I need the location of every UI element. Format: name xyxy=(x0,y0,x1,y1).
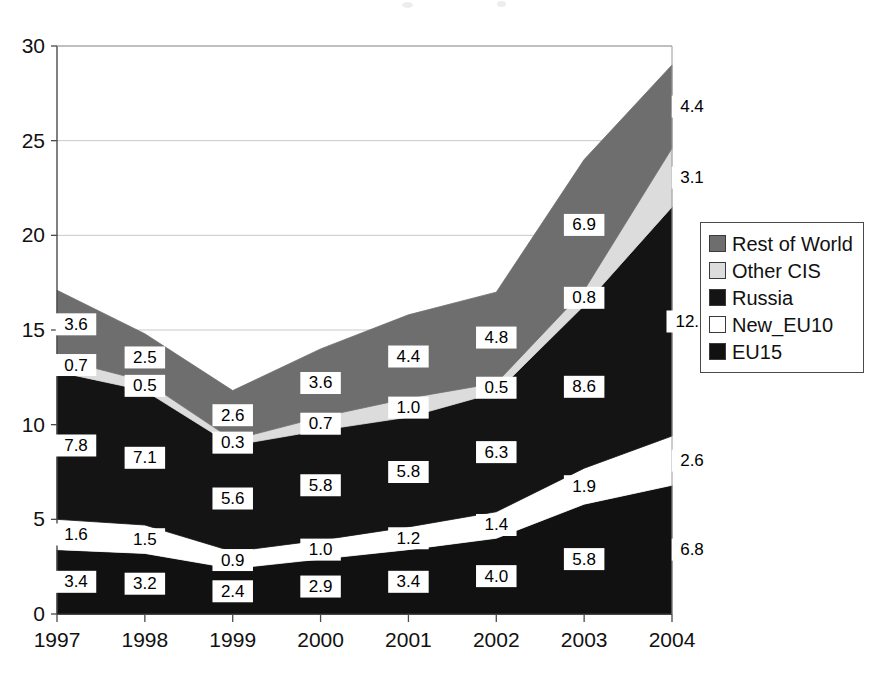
legend-item-label: EU15 xyxy=(732,342,782,362)
y-axis-tick-label: 15 xyxy=(22,318,45,341)
data-label-eu15-2001: 3.4 xyxy=(388,571,429,593)
x-axis-labels: 19971998199920002001200220032004 xyxy=(34,628,696,651)
data-label-value: 5.8 xyxy=(572,550,596,569)
data-label-value: 5.8 xyxy=(309,476,333,495)
data-label-value: 0.3 xyxy=(221,433,245,452)
y-axis-tick-label: 30 xyxy=(22,34,45,57)
data-label-other-cis-2002: 0.5 xyxy=(476,377,517,399)
data-label-rest-of-world-1997: 3.6 xyxy=(56,313,97,335)
data-label-russia-2001: 5.8 xyxy=(388,461,429,483)
legend-item-rest-of-world[interactable]: Rest of World xyxy=(709,230,853,257)
legend-item-new-eu10[interactable]: New_EU10 xyxy=(709,311,853,338)
data-label-other-cis-2001: 1.0 xyxy=(388,397,429,419)
data-label-value: 1.6 xyxy=(64,525,88,544)
data-label-rest-of-world-2000: 3.6 xyxy=(300,372,341,394)
x-axis-tick-label: 1998 xyxy=(121,628,168,651)
data-label-value: 4.4 xyxy=(680,97,704,116)
data-label-other-cis-2000: 0.7 xyxy=(300,413,341,435)
data-label-value: 6.9 xyxy=(572,215,596,234)
data-label-value: 4.4 xyxy=(397,347,421,366)
legend-item-eu15[interactable]: EU15 xyxy=(709,338,853,365)
legend-swatch-icon xyxy=(709,262,726,279)
data-label-russia-2000: 5.8 xyxy=(300,474,341,496)
legend-swatch-icon xyxy=(709,343,726,360)
legend-item-label: Rest of World xyxy=(732,234,853,254)
data-label-value: 8.6 xyxy=(572,377,596,396)
data-label-value: 2.4 xyxy=(221,582,245,601)
data-label-eu15-2000: 2.9 xyxy=(300,576,341,598)
data-label-other-cis-1999: 0.3 xyxy=(212,432,253,454)
data-label-russia-1998: 7.1 xyxy=(125,447,166,469)
data-label-new-eu10-1999: 0.9 xyxy=(212,549,253,571)
y-axis-tick-label: 25 xyxy=(22,129,45,152)
data-label-eu15-2004: 6.8 xyxy=(672,539,713,561)
y-axis-tick-label: 0 xyxy=(33,602,45,625)
data-label-value: 2.5 xyxy=(133,348,157,367)
data-label-new-eu10-2004: 2.6 xyxy=(672,450,713,472)
data-label-new-eu10-2002: 1.4 xyxy=(476,514,517,536)
data-label-eu15-1998: 3.2 xyxy=(125,573,166,595)
data-label-other-cis-1997: 0.7 xyxy=(56,354,97,376)
x-axis-tick-label: 2003 xyxy=(561,628,608,651)
data-label-value: 3.6 xyxy=(309,373,333,392)
data-label-value: 1.4 xyxy=(484,515,508,534)
data-label-value: 0.5 xyxy=(484,378,508,397)
data-label-value: 1.0 xyxy=(397,398,421,417)
data-label-value: 2.6 xyxy=(680,451,704,470)
data-label-eu15-2003: 5.8 xyxy=(564,548,605,570)
data-label-value: 1.5 xyxy=(133,530,157,549)
x-axis-tick-label: 1999 xyxy=(209,628,256,651)
data-label-value: 6.8 xyxy=(680,540,704,559)
y-axis-tick-label: 20 xyxy=(22,223,45,246)
data-label-rest-of-world-2004: 4.4 xyxy=(672,96,713,118)
legend-item-other-cis[interactable]: Other CIS xyxy=(709,257,853,284)
data-label-rest-of-world-1999: 2.6 xyxy=(212,404,253,426)
data-label-value: 0.9 xyxy=(221,551,245,570)
y-axis-tick-label: 10 xyxy=(22,413,45,436)
legend-swatch-icon xyxy=(709,289,726,306)
legend-item-label: Other CIS xyxy=(732,261,821,281)
legend-item-label: Russia xyxy=(732,288,793,308)
data-label-value: 2.6 xyxy=(221,406,245,425)
data-label-rest-of-world-2001: 4.4 xyxy=(388,346,429,368)
data-label-value: 7.1 xyxy=(133,448,157,467)
x-axis-tick-label: 2001 xyxy=(385,628,432,651)
data-label-rest-of-world-2003: 6.9 xyxy=(564,214,605,236)
data-label-value: 5.6 xyxy=(221,489,245,508)
data-label-rest-of-world-1998: 2.5 xyxy=(125,346,166,368)
data-label-value: 1.2 xyxy=(397,529,421,548)
data-label-other-cis-1998: 0.5 xyxy=(125,375,166,397)
x-axis-tick-label: 2004 xyxy=(649,628,696,651)
legend-item-russia[interactable]: Russia xyxy=(709,284,853,311)
data-label-new-eu10-1998: 1.5 xyxy=(125,528,166,550)
data-label-value: 1.9 xyxy=(572,477,596,496)
data-label-value: 1.0 xyxy=(309,540,333,559)
data-label-value: 0.7 xyxy=(64,356,88,375)
x-axis-tick-label: 2002 xyxy=(473,628,520,651)
data-label-eu15-2002: 4.0 xyxy=(476,565,517,587)
chart-container: 051015202530 199719981999200020012002200… xyxy=(0,0,876,677)
data-label-russia-2002: 6.3 xyxy=(476,441,517,463)
data-label-value: 3.6 xyxy=(64,315,88,334)
data-label-value: 0.8 xyxy=(572,288,596,307)
data-label-russia-2003: 8.6 xyxy=(564,376,605,398)
data-label-other-cis-2003: 0.8 xyxy=(564,287,605,309)
data-label-other-cis-2004: 3.1 xyxy=(672,167,713,189)
chart-legend: Rest of WorldOther CISRussiaNew_EU10EU15 xyxy=(700,222,864,373)
data-label-russia-1999: 5.6 xyxy=(212,488,253,510)
x-axis-tick-label: 2000 xyxy=(297,628,344,651)
data-label-value: 3.2 xyxy=(133,574,157,593)
data-label-value: 2.9 xyxy=(309,577,333,596)
data-label-value: 7.8 xyxy=(64,436,88,455)
data-label-new-eu10-2003: 1.9 xyxy=(564,475,605,497)
y-axis-labels: 051015202530 xyxy=(22,34,45,625)
data-label-value: 0.5 xyxy=(133,376,157,395)
data-label-new-eu10-2000: 1.0 xyxy=(300,539,341,561)
data-label-new-eu10-2001: 1.2 xyxy=(388,527,429,549)
y-axis-tick-label: 5 xyxy=(33,507,45,530)
data-label-eu15-1997: 3.4 xyxy=(56,571,97,593)
data-label-new-eu10-1997: 1.6 xyxy=(56,523,97,545)
data-label-rest-of-world-2002: 4.8 xyxy=(476,327,517,349)
data-label-value: 4.0 xyxy=(484,567,508,586)
x-axis-tick-label: 1997 xyxy=(34,628,81,651)
